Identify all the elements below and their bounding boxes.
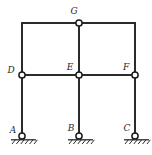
joint-label-B: B [67,123,75,133]
frame-diagram: ABCDEFG [0,0,152,155]
joint-label-C: C [124,123,131,133]
joint-label-E: E [66,62,74,72]
joint-B [76,133,82,139]
joint-label-A: A [9,125,17,135]
joint-E [76,72,82,78]
joint-label-G: G [70,6,77,16]
joint-G [76,20,82,26]
joint-label-D: D [6,65,14,75]
joint-D [19,72,25,78]
structural-frame-svg: ABCDEFG [0,0,152,155]
joint-label-F: F [122,62,130,72]
joint-F [132,72,138,78]
joint-C [132,133,138,139]
joint-A [19,133,25,139]
